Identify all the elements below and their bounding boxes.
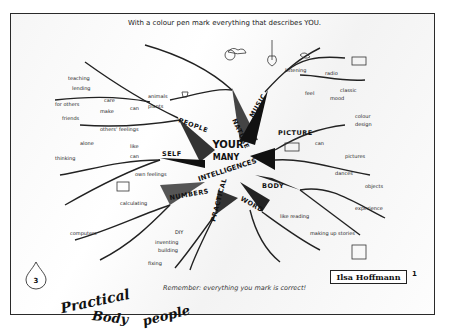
wedge-self — [160, 158, 205, 168]
reminder-text: Remember: everything you mark is correct… — [163, 284, 306, 292]
center-title-line-1: YOUR — [211, 139, 244, 150]
publisher-name-box: Ilsa Hoffmann — [330, 270, 407, 284]
sun-icon — [225, 50, 235, 60]
leaf-label: animals — [148, 93, 168, 99]
violin-icon — [268, 40, 277, 66]
leaf-label: feel — [305, 90, 314, 96]
leaf-label: listening — [285, 67, 306, 74]
leaf-label: computers — [70, 230, 97, 237]
leaf-label: friends — [62, 115, 80, 121]
computer-icon — [117, 182, 129, 191]
leaf-label: inventing — [155, 239, 178, 246]
leaf-label: mood — [330, 95, 344, 101]
puzzle-icon — [352, 245, 366, 259]
leaf-label: teaching — [68, 75, 90, 82]
leaf-label: fixing — [148, 260, 162, 267]
branch-label-self: SELF — [162, 150, 182, 158]
branch-label-body: BODY — [262, 182, 284, 190]
branch-label-picture: PICTURE — [278, 129, 313, 137]
leaf-label: colour — [355, 113, 371, 119]
leaf-label: design — [355, 121, 372, 128]
radio-icon — [352, 57, 366, 65]
page-number: 1 — [412, 270, 417, 278]
leaf-label: pictures — [345, 153, 365, 160]
leaf-label: experience — [355, 205, 383, 212]
tv-icon — [285, 143, 299, 151]
leaf-label: DIY — [175, 229, 184, 235]
leaf-label: building — [158, 247, 178, 254]
leaf-label: care — [104, 97, 115, 103]
leaf-label: for others — [55, 101, 80, 107]
leaf-label: objects — [365, 183, 383, 190]
center-title-line-2: MANY — [213, 153, 240, 162]
leaf-label: others' feelings — [100, 126, 139, 133]
leaf-label: make — [100, 108, 114, 114]
cloud-icon — [228, 48, 246, 53]
leaf-label: own feelings — [135, 171, 167, 178]
leaf-label: like reading — [280, 213, 309, 220]
leaf-label: plants — [148, 103, 164, 110]
leaf-label: lending — [72, 85, 91, 92]
leaf-label: like — [130, 143, 139, 149]
leaf-label: can — [315, 140, 324, 146]
leaf-label: dances — [335, 170, 353, 176]
sheet-badge-drop: 3 — [24, 260, 48, 290]
leaf-label: making up stories — [310, 230, 355, 237]
leaf-label: thinking — [55, 155, 75, 162]
leaf-label: calculating — [120, 200, 147, 207]
sheet-badge-number: 3 — [34, 277, 39, 285]
leaf-label: radio — [325, 70, 338, 76]
leaf-label: alone — [80, 140, 94, 146]
leaf-label: can — [130, 105, 139, 111]
leaf-label: classic — [340, 87, 357, 93]
leaf-label: can — [130, 153, 139, 159]
